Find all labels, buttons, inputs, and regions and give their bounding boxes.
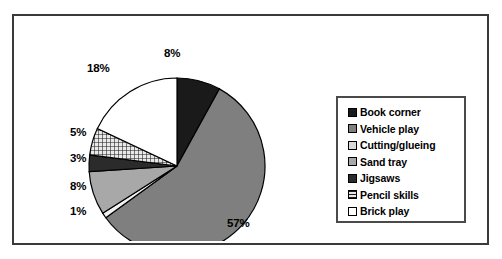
legend-swatch-icon (348, 141, 357, 150)
pie-svg (74, 46, 294, 241)
legend-swatch-icon (348, 190, 357, 199)
chart-canvas: 8% 57% 1% 8% 3% 5% 18% Book cornerVehicl… (0, 0, 502, 259)
legend-label: Sand tray (360, 156, 407, 168)
pie-label-pencil-skills: 5% (70, 126, 86, 138)
legend-item-brick-play[interactable]: Brick play (348, 203, 464, 220)
legend-swatch-icon (348, 174, 357, 183)
pie-label-brick-play: 18% (87, 62, 109, 74)
legend-swatch-icon (348, 157, 357, 166)
legend-item-sand-tray[interactable]: Sand tray (348, 154, 464, 171)
legend-item-book-corner[interactable]: Book corner (348, 104, 464, 121)
pie-label-jigsaws: 3% (70, 152, 86, 164)
legend-item-vehicle-play[interactable]: Vehicle play (348, 121, 464, 138)
legend-item-cutting-glueing[interactable]: Cutting/glueing (348, 137, 464, 154)
legend-swatch-icon (348, 124, 357, 133)
legend-item-pencil-skills[interactable]: Pencil skills (348, 187, 464, 204)
legend-label: Jigsaws (360, 172, 400, 184)
pie-label-cutting-glueing: 1% (70, 205, 86, 217)
legend-label: Brick play (360, 205, 409, 217)
legend-label: Vehicle play (360, 123, 419, 135)
chart-frame: 8% 57% 1% 8% 3% 5% 18% Book cornerVehicl… (12, 14, 489, 245)
pie-chart: 8% 57% 1% 8% 3% 5% 18% (74, 46, 294, 241)
legend-swatch-icon (348, 207, 357, 216)
legend-label: Pencil skills (360, 189, 419, 201)
chart-legend: Book cornerVehicle playCutting/glueingSa… (336, 96, 466, 223)
legend-label: Book corner (360, 106, 421, 118)
pie-label-vehicle-play: 57% (227, 217, 249, 229)
pie-label-sand-tray: 8% (70, 180, 86, 192)
legend-item-jigsaws[interactable]: Jigsaws (348, 170, 464, 187)
pie-label-book-corner: 8% (164, 47, 180, 59)
legend-swatch-icon (348, 108, 357, 117)
legend-label: Cutting/glueing (360, 139, 435, 151)
